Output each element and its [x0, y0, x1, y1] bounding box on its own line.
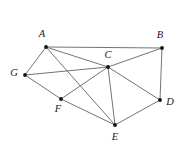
label-layer: ABCDEFG	[10, 28, 174, 142]
graph-edge-F-E	[61, 99, 115, 125]
graph-vertex-D	[158, 98, 162, 102]
graph-vertex-E	[113, 123, 117, 127]
graph-edge-C-E	[108, 67, 115, 125]
graph-edge-A-G	[25, 47, 46, 75]
graph-vertex-label-F: F	[54, 103, 62, 114]
graph-figure: ABCDEFG	[0, 0, 187, 150]
graph-edge-C-G	[25, 67, 108, 75]
graph-edge-D-E	[115, 100, 160, 125]
graph-edge-C-D	[108, 67, 160, 100]
graph-canvas: ABCDEFG	[0, 0, 187, 150]
graph-vertex-label-C: C	[104, 49, 112, 60]
graph-vertex-label-D: D	[165, 96, 174, 107]
edge-layer	[25, 47, 162, 125]
graph-vertex-label-G: G	[10, 67, 18, 78]
graph-edge-G-F	[25, 75, 61, 99]
graph-vertex-label-A: A	[38, 28, 46, 39]
graph-vertex-label-B: B	[157, 29, 164, 40]
graph-vertex-A	[44, 45, 48, 49]
graph-vertex-label-E: E	[111, 131, 119, 142]
graph-edge-B-C	[108, 48, 162, 67]
graph-vertex-G	[23, 73, 27, 77]
graph-edge-A-B	[46, 47, 162, 48]
graph-vertex-F	[59, 97, 63, 101]
graph-edge-B-D	[160, 48, 162, 100]
graph-vertex-C	[106, 65, 110, 69]
graph-vertex-B	[160, 46, 164, 50]
